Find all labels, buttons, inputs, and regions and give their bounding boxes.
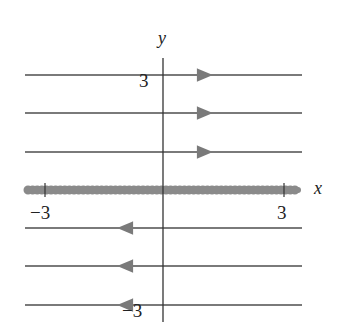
arrow-right-icon — [198, 108, 210, 118]
x-axis-label: x — [313, 178, 322, 198]
y-tick-label-neg3: −3 — [122, 300, 142, 321]
y-axis-label: y — [156, 28, 166, 48]
arrow-right-icon — [198, 147, 210, 157]
arrow-right-icon — [198, 70, 210, 80]
y-tick-label-pos3: 3 — [139, 70, 149, 91]
phase-portrait: y x −3 3 3 −3 — [0, 0, 338, 336]
x-tick-label-pos3: 3 — [277, 202, 287, 223]
arrow-left-icon — [120, 223, 132, 233]
arrow-left-icon — [120, 261, 132, 271]
x-tick-label-neg3: −3 — [30, 202, 50, 223]
